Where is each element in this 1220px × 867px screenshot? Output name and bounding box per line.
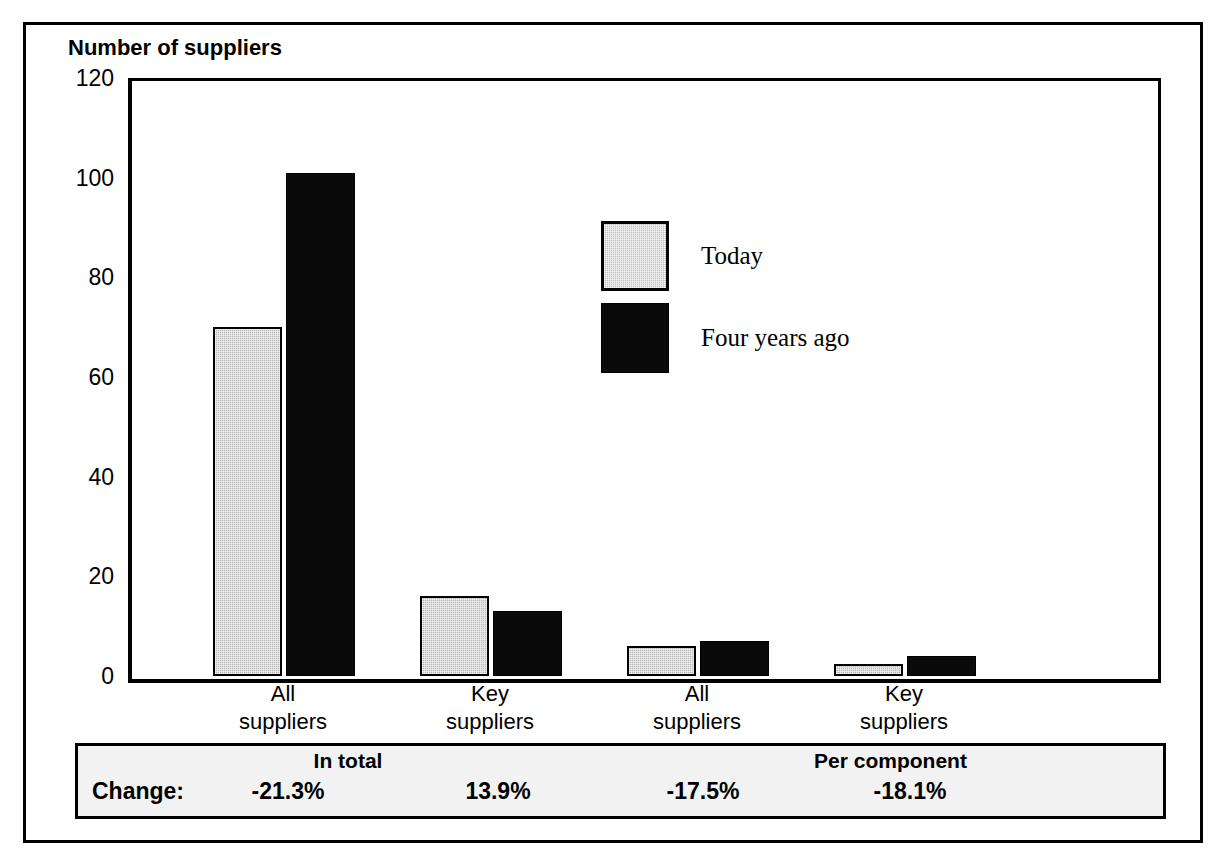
- x-label-group-4-line2: suppliers: [829, 708, 979, 736]
- change-value-all-suppliers-component: -17.5%: [623, 778, 783, 805]
- legend-item-four-years-ago: Four years ago: [601, 303, 850, 373]
- y-axis: 120 100 80 60 40 20 0: [26, 25, 126, 725]
- x-label-group-3: All suppliers: [622, 680, 772, 736]
- x-label-group-1-line1: All: [208, 680, 358, 708]
- x-axis-labels: All suppliers Key suppliers All supplier…: [26, 680, 1206, 750]
- change-table-header-in-total: In total: [78, 749, 618, 773]
- legend: Today Four years ago: [601, 221, 850, 385]
- y-tick-60: 60: [88, 366, 114, 389]
- legend-label-today: Today: [701, 242, 763, 270]
- y-tick-120: 120: [76, 67, 114, 90]
- legend-swatch-four-years-ago-icon: [601, 303, 669, 373]
- x-label-group-3-line1: All: [622, 680, 772, 708]
- legend-item-today: Today: [601, 221, 850, 291]
- x-label-group-2: Key suppliers: [415, 680, 565, 736]
- change-table-row-label: Change:: [92, 778, 184, 805]
- y-tick-80: 80: [88, 266, 114, 289]
- change-table: In total Per component Change: -21.3% 13…: [75, 743, 1166, 819]
- change-table-header-per-component: Per component: [618, 749, 1163, 773]
- y-tick-100: 100: [76, 167, 114, 190]
- x-label-group-4: Key suppliers: [829, 680, 979, 736]
- change-table-header-row: In total Per component: [78, 746, 1163, 780]
- x-label-group-4-line1: Key: [829, 680, 979, 708]
- figure-frame: Number of suppliers 120 100 80 60 40 20 …: [23, 22, 1203, 843]
- change-table-value-row: Change: -21.3% 13.9% -17.5% -18.1%: [78, 778, 1163, 818]
- change-value-key-suppliers-component: -18.1%: [830, 778, 990, 805]
- change-value-all-suppliers-total: -21.3%: [208, 778, 368, 805]
- legend-swatch-today-icon: [601, 221, 669, 291]
- x-label-group-1-line2: suppliers: [208, 708, 358, 736]
- x-label-group-2-line1: Key: [415, 680, 565, 708]
- legend-label-four-years-ago: Four years ago: [701, 324, 850, 352]
- change-value-key-suppliers-total: 13.9%: [418, 778, 578, 805]
- y-tick-40: 40: [88, 466, 114, 489]
- x-label-group-2-line2: suppliers: [415, 708, 565, 736]
- y-tick-20: 20: [88, 565, 114, 588]
- x-label-group-3-line2: suppliers: [622, 708, 772, 736]
- x-label-group-1: All suppliers: [208, 680, 358, 736]
